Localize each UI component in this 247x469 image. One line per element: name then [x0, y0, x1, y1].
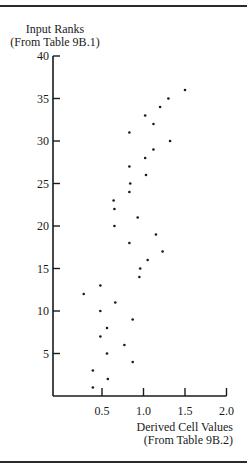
y-tick-label: 10	[37, 304, 49, 318]
y-tick-label: 20	[37, 219, 49, 233]
data-point	[152, 123, 155, 126]
data-point	[128, 131, 131, 134]
data-point	[155, 233, 158, 236]
data-point	[159, 106, 162, 109]
data-point	[167, 97, 170, 100]
y-tick-label: 5	[43, 347, 49, 361]
data-points	[82, 89, 186, 389]
data-point	[161, 250, 164, 253]
data-point	[82, 293, 85, 296]
data-point	[99, 310, 102, 313]
data-point	[112, 199, 115, 202]
axes: 5101520253035400.51.01.52.0	[37, 49, 234, 418]
data-point	[131, 361, 134, 364]
data-point	[184, 89, 187, 92]
data-point	[106, 352, 109, 355]
data-point	[128, 165, 131, 168]
y-tick-label: 40	[37, 49, 49, 63]
data-point	[146, 259, 149, 262]
data-point	[99, 335, 102, 338]
data-point	[92, 369, 95, 372]
x-axis-label-source: (From Table 9B.2)	[144, 434, 233, 447]
x-tick-label: 1.0	[136, 404, 151, 418]
data-point	[138, 276, 141, 279]
data-point	[169, 140, 172, 143]
x-tick-label: 2.0	[219, 404, 234, 418]
y-tick-label: 30	[37, 134, 49, 148]
y-tick-label: 35	[37, 92, 49, 106]
data-point	[144, 157, 147, 160]
data-point	[128, 242, 131, 245]
data-point	[113, 225, 116, 228]
x-tick-label: 0.5	[95, 404, 110, 418]
data-point	[123, 344, 126, 347]
data-point	[131, 318, 134, 321]
y-tick-label: 15	[37, 262, 49, 276]
data-point	[129, 182, 132, 185]
data-point	[113, 208, 116, 211]
bottom-rule	[0, 461, 247, 463]
data-point	[145, 174, 148, 177]
data-point	[152, 148, 155, 151]
scatter-plot: 5101520253035400.51.01.52.0	[0, 0, 247, 469]
data-point	[106, 327, 109, 330]
data-point	[114, 301, 117, 304]
data-point	[92, 386, 95, 389]
x-tick-label: 1.5	[178, 404, 193, 418]
data-point	[128, 191, 131, 194]
data-point	[107, 378, 110, 381]
data-point	[139, 267, 142, 270]
data-point	[99, 284, 102, 287]
data-point	[144, 114, 147, 117]
y-axis-label-source: (From Table 9B.1)	[8, 36, 102, 49]
y-tick-label: 25	[37, 177, 49, 191]
data-point	[136, 216, 139, 219]
